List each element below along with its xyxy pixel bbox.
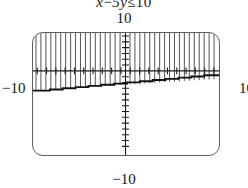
graph-canvas: [33, 33, 219, 155]
caption-term-5y: 5y: [112, 0, 127, 10]
caption-relation-symbol: ≤: [127, 0, 136, 10]
y-max-label: 10: [0, 10, 248, 27]
caption-right-hand-side: 10: [136, 0, 152, 10]
caption-minus-sign: −: [103, 0, 112, 10]
calculator-screen: [32, 32, 220, 156]
graph-figure: x−5y≤10 10 −10 10 −10: [0, 0, 248, 188]
x-max-label: 10: [239, 80, 248, 97]
x-min-label: −10: [2, 80, 25, 97]
y-min-label: −10: [0, 171, 248, 188]
y-axis: [122, 33, 129, 155]
